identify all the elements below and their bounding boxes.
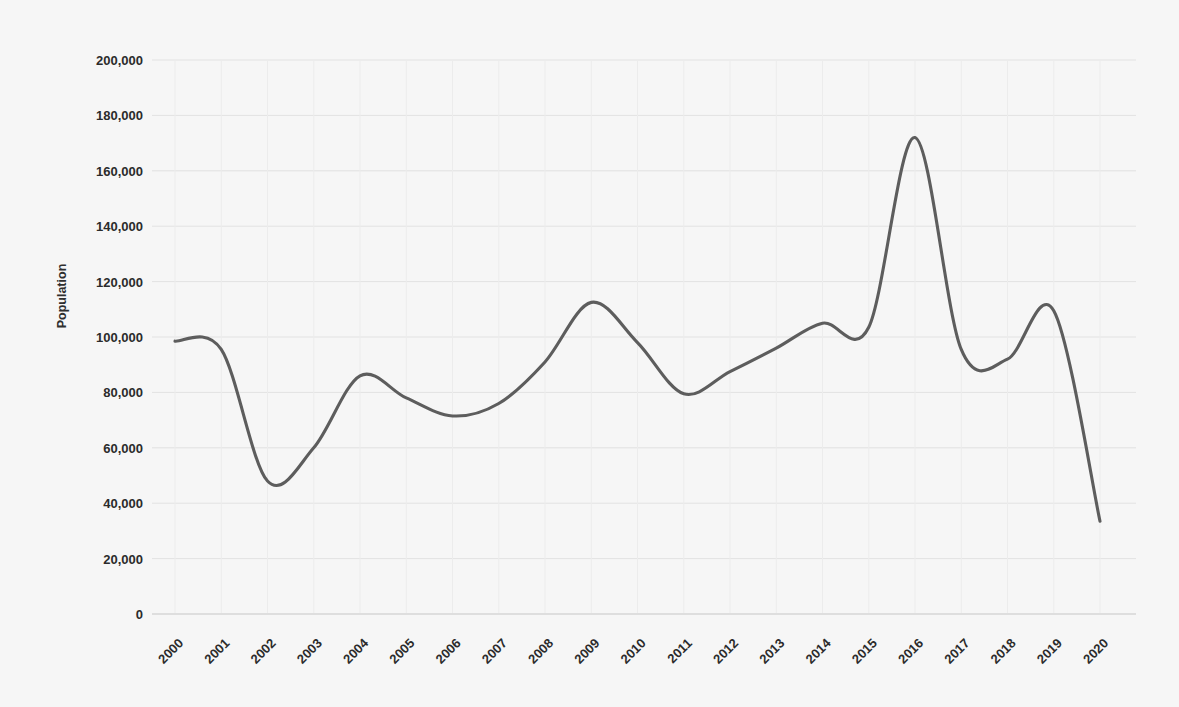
x-axis-tick-label: 2015 — [849, 636, 880, 667]
y-axis-tick-label: 120,000 — [96, 275, 143, 290]
y-axis-tick-label: 20,000 — [103, 552, 143, 567]
vertical-gridlines — [175, 60, 1100, 614]
x-axis-tick-label: 2003 — [294, 636, 325, 667]
x-axis-tick-label: 2004 — [340, 635, 372, 667]
x-axis-tick-label: 2016 — [895, 636, 926, 667]
horizontal-gridlines — [152, 60, 1136, 614]
x-axis-tick-label: 2020 — [1080, 636, 1111, 667]
x-axis-tick-label: 2010 — [618, 636, 649, 667]
y-axis-tick-label: 60,000 — [103, 441, 143, 456]
y-axis-tick-label: 200,000 — [96, 53, 143, 68]
x-axis-tick-label: 2013 — [756, 636, 787, 667]
y-axis-tick-label: 40,000 — [103, 496, 143, 511]
x-axis-tick-label: 2011 — [664, 636, 695, 667]
x-axis-tick-label: 2002 — [248, 636, 279, 667]
y-axis-tick-label: 160,000 — [96, 164, 143, 179]
x-axis-tick-label: 2018 — [988, 636, 1019, 667]
x-axis-tick-labels: 2000200120022003200420052006200720082009… — [155, 635, 1111, 667]
y-axis-tick-label: 80,000 — [103, 385, 143, 400]
y-axis-tick-label: 0 — [136, 607, 143, 622]
y-axis-tick-label: 100,000 — [96, 330, 143, 345]
x-axis-tick-label: 2005 — [386, 636, 417, 667]
x-axis-tick-label: 2009 — [571, 636, 602, 667]
x-axis-tick-label: 2017 — [941, 636, 972, 667]
chart-canvas: 020,00040,00060,00080,000100,000120,0001… — [0, 0, 1179, 707]
x-axis-tick-label: 2000 — [155, 636, 186, 667]
x-axis-tick-label: 2012 — [710, 636, 741, 667]
x-axis-tick-label: 2014 — [803, 635, 835, 667]
y-axis-title: Population — [55, 264, 69, 329]
x-axis-tick-label: 2008 — [525, 636, 556, 667]
x-axis-tick-label: 2006 — [433, 636, 464, 667]
x-axis-tick-label: 2001 — [201, 636, 232, 667]
y-axis-tick-label: 180,000 — [96, 108, 143, 123]
x-axis-tick-label: 2019 — [1034, 636, 1065, 667]
y-axis-tick-label: 140,000 — [96, 219, 143, 234]
x-axis-tick-label: 2007 — [479, 636, 510, 667]
y-axis-tick-labels: 020,00040,00060,00080,000100,000120,0001… — [96, 53, 143, 622]
line-chart: 020,00040,00060,00080,000100,000120,0001… — [0, 0, 1179, 707]
